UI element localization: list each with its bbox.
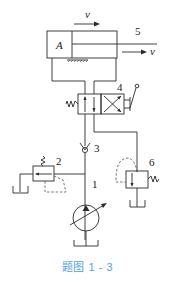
velocity-label-top: v [85, 8, 90, 20]
directional-valve-4 [66, 84, 139, 114]
check-valve-3 [80, 143, 90, 240]
component-label-1: 1 [92, 178, 98, 190]
hydraulic-circuit-diagram: v A 5 v [0, 0, 175, 284]
relief-valve-2 [13, 156, 85, 193]
component-label-5: 5 [135, 25, 141, 37]
velocity-label-rod: v [150, 45, 155, 57]
velocity-arrow-top [74, 22, 100, 27]
component-label-6: 6 [149, 156, 155, 168]
component-label-2: 2 [56, 155, 62, 167]
variable-pump-1 [70, 203, 107, 246]
pipe-cylinder-right [94, 58, 116, 94]
velocity-arrow-rod [122, 50, 147, 55]
pipe-cylinder-left [52, 58, 85, 94]
cylinder-5 [47, 31, 157, 62]
component-label-3: 3 [94, 142, 100, 154]
figure-caption: 题图 1 - 3 [0, 258, 175, 274]
component-label-4: 4 [117, 81, 123, 93]
pipe-return [94, 114, 137, 172]
cylinder-area-label: A [55, 39, 63, 51]
